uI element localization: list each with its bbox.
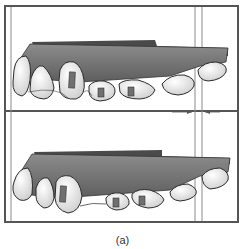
dental-figure: [0, 0, 245, 249]
bracket: [113, 198, 119, 207]
top-dental-model: [13, 40, 228, 101]
bracket: [69, 72, 76, 88]
tooth: [119, 80, 155, 99]
bracket: [59, 186, 66, 202]
tooth: [162, 75, 194, 95]
bracket: [128, 87, 134, 96]
tooth: [13, 56, 31, 96]
bracket: [139, 196, 145, 205]
bracket: [98, 88, 104, 97]
tooth: [132, 190, 164, 209]
tooth: [13, 168, 33, 200]
bottom-dental-model: [13, 150, 230, 213]
figure-caption: (a): [0, 234, 245, 246]
